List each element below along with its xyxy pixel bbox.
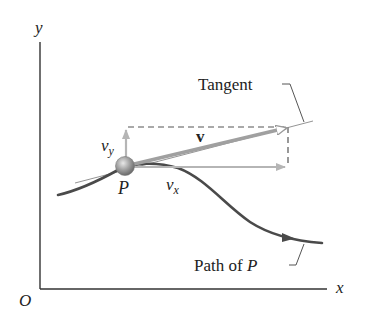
path-direction-arrow	[282, 233, 295, 242]
x-axis-label: x	[335, 278, 344, 297]
vy-label: vy	[101, 136, 115, 158]
origin-label: O	[19, 291, 31, 310]
particle-label: P	[117, 178, 129, 198]
path-label: Path of P	[194, 256, 257, 275]
velocity-label: v	[196, 127, 205, 146]
path-leader	[289, 244, 304, 265]
particle-p	[116, 157, 135, 176]
y-axis-label: y	[33, 18, 43, 37]
vx-label: vx	[166, 175, 180, 197]
path-curve	[58, 164, 322, 243]
velocity-vector	[130, 128, 286, 165]
velocity-diagram: y x O Tangent Path of P vx vy v P	[0, 0, 368, 317]
tangent-label: Tangent	[198, 75, 253, 94]
tangent-leader	[282, 84, 304, 122]
